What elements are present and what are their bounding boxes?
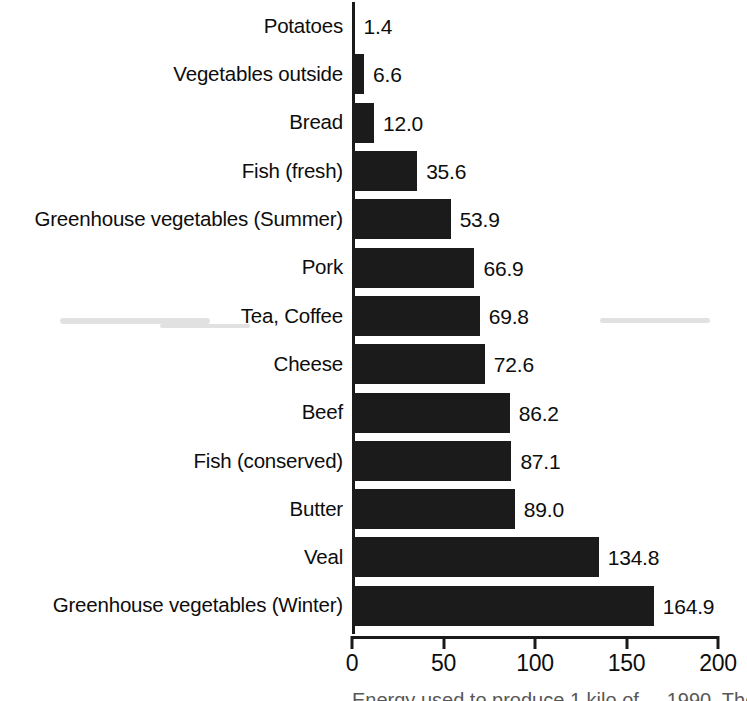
bar-row: 12.0 — [352, 99, 718, 147]
category-label: Fish (fresh) — [0, 147, 343, 195]
category-label: Cheese — [0, 340, 343, 388]
category-label: Greenhouse vegetables (Winter) — [0, 582, 343, 630]
bar-value-label: 1.4 — [364, 16, 393, 37]
bar-rows: 1.4 6.6 12.0 35.6 53.9 — [352, 2, 718, 630]
bar-row: 1.4 — [352, 2, 718, 50]
category-axis: Potatoes Vegetables outside Bread Fish (… — [0, 2, 343, 630]
bar: 87.1 — [352, 441, 511, 481]
category-label: Veal — [0, 533, 343, 581]
value-axis: 0 50 100 150 200 — [352, 636, 718, 637]
bar-value-label: 6.6 — [373, 64, 402, 85]
axis-tick-label: 200 — [699, 652, 736, 675]
category-label: Butter — [0, 485, 343, 533]
axis-tick — [442, 636, 445, 649]
bar-value-label: 69.8 — [489, 305, 529, 326]
bar-row: 86.2 — [352, 388, 718, 436]
bar: 35.6 — [352, 151, 417, 191]
axis-tick — [717, 636, 720, 649]
axis-tick — [625, 636, 628, 649]
bar-value-label: 164.9 — [663, 595, 715, 616]
bar-value-label: 134.8 — [608, 547, 660, 568]
axis-tick — [351, 636, 354, 649]
axis-tick-label: 100 — [516, 652, 553, 675]
bar: 164.9 — [352, 586, 654, 626]
bar-row: 164.9 — [352, 582, 718, 630]
category-label: Vegetables outside — [0, 50, 343, 98]
bar-value-label: 53.9 — [460, 209, 500, 230]
bar: 134.8 — [352, 537, 599, 577]
axis-tick-label: 150 — [608, 652, 645, 675]
bar-value-label: 89.0 — [524, 499, 564, 520]
bar: 6.6 — [352, 54, 364, 94]
bar-row: 53.9 — [352, 195, 718, 243]
bar-value-label: 72.6 — [494, 354, 534, 375]
axis-tick-label: 50 — [431, 652, 456, 675]
bar-row: 35.6 — [352, 147, 718, 195]
bar: 69.8 — [352, 296, 480, 336]
bar-row: 72.6 — [352, 340, 718, 388]
bar: 1.4 — [352, 6, 355, 46]
category-label: Pork — [0, 243, 343, 291]
category-label: Tea, Coffee — [0, 292, 343, 340]
bar-chart: Potatoes Vegetables outside Bread Fish (… — [0, 0, 747, 701]
bar: 53.9 — [352, 199, 451, 239]
bar-row: 87.1 — [352, 437, 718, 485]
bar-row: 89.0 — [352, 485, 718, 533]
bar: 72.6 — [352, 344, 485, 384]
figure-caption-text: Energy used to produce 1 kilo of ... 199… — [352, 690, 747, 701]
plot-area: 1.4 6.6 12.0 35.6 53.9 — [352, 2, 718, 630]
bar-value-label: 66.9 — [483, 257, 523, 278]
bar-value-label: 35.6 — [426, 161, 466, 182]
figure-caption-clipped: Energy used to produce 1 kilo of ... 199… — [352, 690, 747, 701]
category-label: Bread — [0, 99, 343, 147]
bar-value-label: 87.1 — [520, 450, 560, 471]
bar-row: 6.6 — [352, 50, 718, 98]
category-label: Beef — [0, 388, 343, 436]
bar: 89.0 — [352, 489, 515, 529]
axis-tick — [534, 636, 537, 649]
bar: 86.2 — [352, 393, 510, 433]
axis-tick-label: 0 — [346, 652, 359, 675]
bar-row: 134.8 — [352, 533, 718, 581]
bar-value-label: 12.0 — [383, 112, 423, 133]
bar: 66.9 — [352, 248, 474, 288]
bar: 12.0 — [352, 103, 374, 143]
bar-value-label: 86.2 — [519, 402, 559, 423]
category-label: Potatoes — [0, 2, 343, 50]
bar-row: 69.8 — [352, 292, 718, 340]
category-label: Greenhouse vegetables (Summer) — [0, 195, 343, 243]
category-label: Fish (conserved) — [0, 437, 343, 485]
bar-row: 66.9 — [352, 243, 718, 291]
